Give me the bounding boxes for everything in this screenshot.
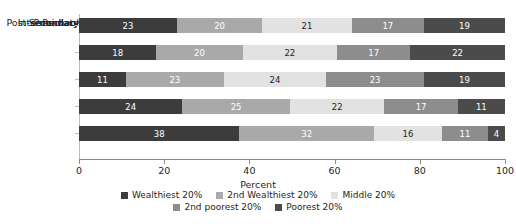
bar-segment: 16 bbox=[374, 126, 441, 141]
bar-segment: 18 bbox=[79, 45, 156, 60]
bar-segment: 22 bbox=[410, 45, 505, 60]
bar-segment: 23 bbox=[79, 18, 177, 33]
legend-row-bottom: 2nd poorest 20%Poorest 20% bbox=[0, 201, 516, 213]
x-axis-line bbox=[79, 159, 506, 160]
stacked-bar: 2425221711 bbox=[79, 99, 505, 114]
bar-segment: 17 bbox=[384, 99, 457, 114]
y-axis-tick bbox=[75, 25, 79, 26]
stacked-bar-chart: Preschool2320211719Primary1820221722Inte… bbox=[0, 0, 516, 224]
stacked-bar: 2320211719 bbox=[79, 18, 505, 33]
legend-swatch-icon bbox=[331, 192, 338, 199]
bar-segment: 20 bbox=[177, 18, 262, 33]
bar-segment: 11 bbox=[458, 99, 505, 114]
legend-swatch-icon bbox=[216, 192, 223, 199]
legend-swatch-icon bbox=[121, 192, 128, 199]
legend-label: Wealthiest 20% bbox=[132, 190, 202, 200]
x-axis-tick bbox=[249, 160, 250, 164]
legend-row-top: Wealthiest 20%2nd Wealthiest 20%Middle 2… bbox=[0, 189, 516, 201]
category-label: Post-secondary bbox=[5, 17, 79, 28]
x-axis-tick bbox=[164, 160, 165, 164]
legend-label: Middle 20% bbox=[342, 190, 395, 200]
x-axis-tick-label: 20 bbox=[158, 165, 170, 176]
bar-segment: 22 bbox=[290, 99, 385, 114]
x-axis-tick-label: 60 bbox=[329, 165, 341, 176]
x-axis-tick-label: 0 bbox=[76, 165, 82, 176]
stacked-bar: 1820221722 bbox=[79, 45, 505, 60]
bar-segment: 23 bbox=[326, 72, 424, 87]
bar-segment: 24 bbox=[79, 99, 182, 114]
x-axis-tick bbox=[335, 160, 336, 164]
stacked-bar: 1123242319 bbox=[79, 72, 505, 87]
bar-segment: 11 bbox=[442, 126, 488, 141]
legend-label: 2nd Wealthiest 20% bbox=[227, 190, 317, 200]
stacked-bar: 383216114 bbox=[79, 126, 505, 141]
bar-segment: 20 bbox=[156, 45, 242, 60]
bar-segment: 38 bbox=[79, 126, 239, 141]
legend-swatch-icon bbox=[275, 204, 282, 211]
bar-segment: 24 bbox=[224, 72, 326, 87]
y-axis-tick bbox=[75, 133, 79, 134]
bar-segment: 22 bbox=[243, 45, 338, 60]
bar-segment: 19 bbox=[424, 72, 505, 87]
x-axis-tick-label: 80 bbox=[414, 165, 426, 176]
y-axis-tick bbox=[75, 52, 79, 53]
bar-segment: 32 bbox=[239, 126, 374, 141]
legend-label: Poorest 20% bbox=[286, 202, 342, 212]
bar-segment: 25 bbox=[182, 99, 290, 114]
legend-label: 2nd poorest 20% bbox=[184, 202, 261, 212]
bar-segment: 17 bbox=[337, 45, 410, 60]
legend-item[interactable]: 2nd poorest 20% bbox=[173, 202, 261, 212]
y-axis-tick bbox=[75, 79, 79, 80]
bar-segment: 19 bbox=[424, 18, 505, 33]
x-axis-tick-label: 100 bbox=[496, 165, 514, 176]
x-axis-tick bbox=[505, 160, 506, 164]
chart-legend: Wealthiest 20%2nd Wealthiest 20%Middle 2… bbox=[0, 189, 516, 213]
plot-area: Preschool2320211719Primary1820221722Inte… bbox=[79, 14, 505, 159]
legend-item[interactable]: Middle 20% bbox=[331, 190, 395, 200]
bar-segment: 11 bbox=[79, 72, 126, 87]
legend-swatch-icon bbox=[173, 204, 180, 211]
bar-segment: 23 bbox=[126, 72, 224, 87]
bar-segment: 4 bbox=[488, 126, 505, 141]
legend-item[interactable]: Wealthiest 20% bbox=[121, 190, 202, 200]
bar-segment: 17 bbox=[352, 18, 424, 33]
x-axis-tick bbox=[420, 160, 421, 164]
x-axis-tick bbox=[79, 160, 80, 164]
chart-title-cropped bbox=[0, 0, 516, 3]
legend-item[interactable]: 2nd Wealthiest 20% bbox=[216, 190, 317, 200]
x-axis-tick-label: 40 bbox=[243, 165, 255, 176]
bar-segment: 21 bbox=[262, 18, 351, 33]
legend-item[interactable]: Poorest 20% bbox=[275, 202, 342, 212]
y-axis-tick bbox=[75, 106, 79, 107]
